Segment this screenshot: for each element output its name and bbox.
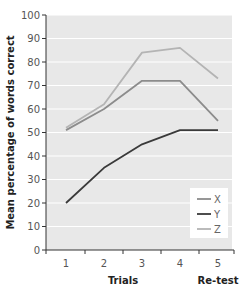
x-axis-secondary-title: Re-test — [198, 275, 239, 286]
y-tick-label: 20 — [27, 198, 40, 209]
legend-label-x: X — [214, 194, 221, 205]
y-tick-label: 90 — [27, 33, 40, 44]
y-tick-label: 80 — [27, 57, 40, 68]
y-axis-title: Mean percentage of words correct — [5, 35, 16, 229]
legend: XYZ — [190, 188, 228, 238]
x-axis-ticks: 12345 — [46, 250, 234, 269]
chart-canvas: 0102030405060708090100 12345 Mean percen… — [0, 0, 248, 295]
x-tick-label: 2 — [101, 258, 107, 269]
x-tick-label: 4 — [177, 258, 183, 269]
x-tick-label: 3 — [139, 258, 145, 269]
y-tick-label: 40 — [27, 151, 40, 162]
legend-box — [190, 188, 228, 238]
y-tick-label: 10 — [27, 221, 40, 232]
x-tick-label: 1 — [63, 258, 69, 269]
y-tick-label: 70 — [27, 80, 40, 91]
y-tick-label: 30 — [27, 174, 40, 185]
legend-label-z: Z — [214, 224, 221, 235]
y-tick-label: 100 — [21, 10, 40, 21]
x-tick-label: 5 — [215, 258, 221, 269]
legend-label-y: Y — [213, 209, 221, 220]
y-axis-ticks: 0102030405060708090100 — [21, 10, 46, 256]
line-chart: 0102030405060708090100 12345 Mean percen… — [0, 0, 248, 295]
x-axis-title: Trials — [108, 275, 138, 286]
y-tick-label: 60 — [27, 104, 40, 115]
y-tick-label: 50 — [27, 127, 40, 138]
y-tick-label: 0 — [34, 245, 40, 256]
